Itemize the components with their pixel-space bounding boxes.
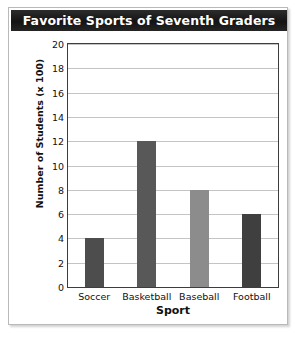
x-axis-tick-label: Football [233, 291, 271, 302]
chart-title-bar: Favorite Sports of Seventh Graders [11, 10, 287, 31]
y-axis-title: Number of Students (x 100) [34, 44, 45, 224]
bar-baseball [190, 190, 209, 287]
y-axis-tick-label: 20 [52, 39, 64, 50]
gridline [68, 44, 278, 45]
bar-football [242, 214, 261, 287]
y-axis-tick-label: 0 [58, 282, 64, 293]
x-axis-title: Sport [67, 304, 279, 317]
x-axis-tick-label: Baseball [179, 291, 219, 302]
bar-basketball [137, 141, 156, 287]
y-axis-tick-label: 12 [52, 136, 64, 147]
y-axis-tick-label: 10 [52, 160, 64, 171]
y-axis-tick-label: 2 [58, 257, 64, 268]
x-axis-tick-label: Basketball [122, 291, 171, 302]
y-axis-tick-label: 18 [52, 63, 64, 74]
gridline [68, 68, 278, 69]
gridline [68, 93, 278, 94]
gridline [68, 141, 278, 142]
gridline [68, 117, 278, 118]
chart-card: Favorite Sports of Seventh Graders Numbe… [8, 7, 288, 325]
y-axis-tick-label: 14 [52, 111, 64, 122]
x-axis-tick-label: Soccer [78, 291, 110, 302]
gridline [68, 190, 278, 191]
y-axis-tick-label: 8 [58, 184, 64, 195]
gridline [68, 166, 278, 167]
y-axis-tick-label: 6 [58, 209, 64, 220]
chart-title: Favorite Sports of Seventh Graders [23, 13, 276, 28]
y-axis-tick-label: 16 [52, 87, 64, 98]
y-axis-tick-label: 4 [58, 233, 64, 244]
plot-area: 02468101214161820 SoccerBasketballBaseba… [67, 43, 279, 288]
bar-soccer [85, 238, 104, 287]
